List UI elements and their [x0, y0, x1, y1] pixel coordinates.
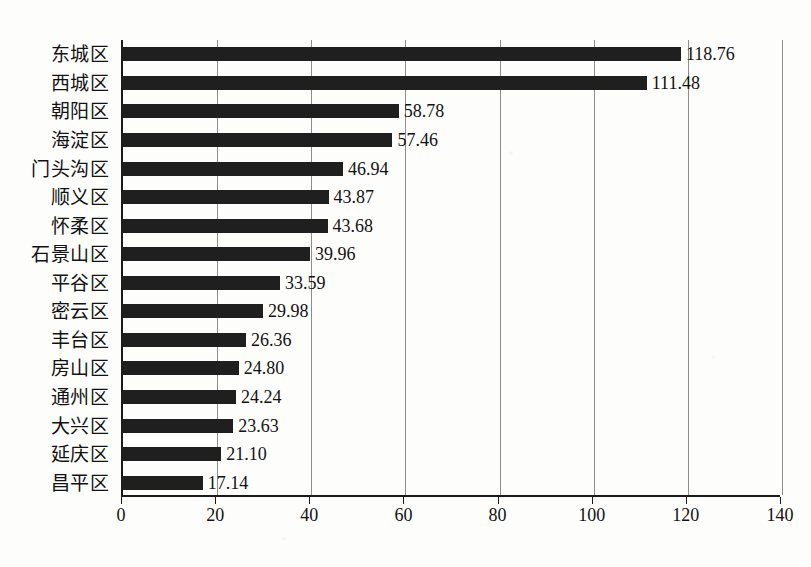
- x-axis-tick-mark: [403, 497, 404, 504]
- bar-value-label: 23.63: [238, 417, 279, 435]
- bar-value-label: 46.94: [348, 160, 389, 178]
- x-axis-tick-label: 80: [489, 506, 507, 524]
- category-label: 大兴区: [51, 416, 110, 435]
- category-label: 延庆区: [51, 445, 110, 464]
- bar-rows: 东城区118.76西城区111.48朝阳区58.78海淀区57.46门头沟区46…: [0, 40, 811, 497]
- category-label: 通州区: [51, 388, 110, 407]
- bar: [122, 133, 392, 147]
- x-axis-tick-label: 0: [117, 506, 126, 524]
- bar-row: 海淀区57.46: [0, 126, 811, 155]
- bar-row: 顺义区43.87: [0, 183, 811, 212]
- category-label: 怀柔区: [51, 216, 110, 235]
- bar-value-label: 26.36: [251, 331, 292, 349]
- category-label: 丰台区: [51, 330, 110, 349]
- bar: [122, 390, 236, 404]
- bar-value-label: 21.10: [226, 445, 267, 463]
- category-label: 顺义区: [51, 188, 110, 207]
- bar-value-label: 33.59: [285, 274, 326, 292]
- bar-row: 朝阳区58.78: [0, 97, 811, 126]
- bar-value-label: 111.48: [652, 74, 700, 92]
- bar-value-label: 43.87: [334, 188, 375, 206]
- bar-row: 房山区24.80: [0, 354, 811, 383]
- bar-row: 怀柔区43.68: [0, 211, 811, 240]
- category-label: 朝阳区: [51, 102, 110, 121]
- bar-value-label: 118.76: [686, 45, 735, 63]
- bar-value-label: 17.14: [208, 474, 249, 492]
- x-axis-tick-mark: [121, 497, 122, 504]
- bar: [122, 361, 239, 375]
- bar: [122, 476, 203, 490]
- bar-row: 丰台区26.36: [0, 326, 811, 355]
- category-label: 密云区: [51, 302, 110, 321]
- x-axis-tick-label: 140: [767, 506, 794, 524]
- x-axis-tick-label: 120: [672, 506, 699, 524]
- bar: [122, 333, 246, 347]
- bar-row: 东城区118.76: [0, 40, 811, 69]
- x-axis-tick-mark: [780, 497, 781, 504]
- x-axis-tick-mark: [309, 497, 310, 504]
- category-label: 昌平区: [51, 473, 110, 492]
- bar-row: 平谷区33.59: [0, 269, 811, 298]
- x-axis-tick-label: 40: [300, 506, 318, 524]
- bar-chart: 东城区118.76西城区111.48朝阳区58.78海淀区57.46门头沟区46…: [0, 0, 811, 567]
- category-label: 平谷区: [51, 273, 110, 292]
- bar-row: 石景山区39.96: [0, 240, 811, 269]
- bar-value-label: 29.98: [268, 302, 309, 320]
- category-label: 东城区: [51, 45, 110, 64]
- bar-row: 西城区111.48: [0, 69, 811, 98]
- bar-value-label: 58.78: [404, 102, 445, 120]
- x-axis-tick-mark: [215, 497, 216, 504]
- bar: [122, 276, 280, 290]
- bar-row: 通州区24.24: [0, 383, 811, 412]
- bar: [122, 162, 343, 176]
- bar-row: 延庆区21.10: [0, 440, 811, 469]
- bar-row: 大兴区23.63: [0, 411, 811, 440]
- category-label: 门头沟区: [31, 159, 109, 178]
- bar-value-label: 43.68: [333, 217, 374, 235]
- category-label: 西城区: [51, 73, 110, 92]
- x-axis-tick-mark: [498, 497, 499, 504]
- x-axis-tick-label: 60: [394, 506, 412, 524]
- x-axis-tick-labels: 020406080100120140: [0, 506, 811, 536]
- category-label: 石景山区: [31, 245, 109, 264]
- bar-value-label: 39.96: [315, 245, 356, 263]
- x-axis-tick-label: 100: [578, 506, 605, 524]
- bar: [122, 190, 329, 204]
- bar: [122, 76, 647, 90]
- bar: [122, 104, 399, 118]
- bar: [122, 419, 233, 433]
- bar-value-label: 24.24: [241, 388, 282, 406]
- x-axis-tick-mark: [686, 497, 687, 504]
- bar-row: 密云区29.98: [0, 297, 811, 326]
- bar: [122, 219, 328, 233]
- x-axis-tick-label: 20: [206, 506, 224, 524]
- category-label: 海淀区: [51, 130, 110, 149]
- x-axis-tick-mark: [592, 497, 593, 504]
- bar: [122, 304, 263, 318]
- category-label: 房山区: [51, 359, 110, 378]
- bar: [122, 247, 310, 261]
- bar-row: 门头沟区46.94: [0, 154, 811, 183]
- bar: [122, 47, 681, 61]
- bar-value-label: 57.46: [397, 131, 438, 149]
- bar-row: 昌平区17.14: [0, 468, 811, 497]
- bar-value-label: 24.80: [244, 359, 285, 377]
- bar: [122, 447, 221, 461]
